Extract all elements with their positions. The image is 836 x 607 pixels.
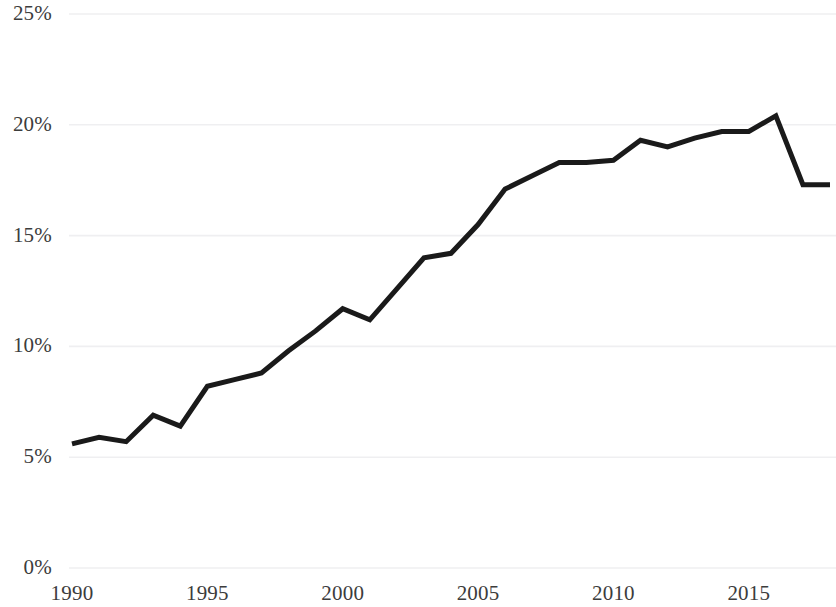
x-tick-label-1995: 1995 [167, 583, 247, 604]
data-line-1 [72, 116, 830, 444]
x-tick-label-2015: 2015 [709, 583, 789, 604]
y-tick-label-20pct: 20% [13, 114, 52, 135]
y-tick-label-25pct: 25% [13, 3, 52, 24]
y-tick-label-5pct: 5% [24, 446, 52, 467]
y-tick-label-0pct: 0% [24, 557, 52, 578]
chart-canvas [0, 0, 836, 607]
gridlines [69, 14, 836, 568]
y-tick-label-15pct: 15% [13, 225, 52, 246]
x-tick-label-2005: 2005 [438, 583, 518, 604]
x-tick-label-1990: 1990 [32, 583, 112, 604]
data-series-group [72, 116, 830, 444]
x-tick-label-2000: 2000 [303, 583, 383, 604]
y-tick-label-10pct: 10% [13, 335, 52, 356]
line-chart: 0%5%10%15%20%25% 19901995200020052010201… [0, 0, 836, 607]
x-tick-label-2010: 2010 [573, 583, 653, 604]
